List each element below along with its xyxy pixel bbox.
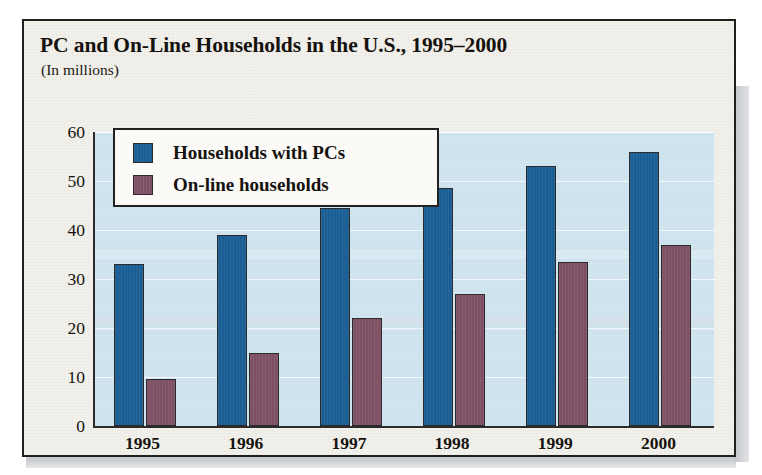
chart-subtitle-units: (In millions) <box>41 61 119 79</box>
x-axis-tick-1996: 1996 <box>228 433 263 454</box>
bar-online-1996 <box>249 353 279 427</box>
chart-title: PC and On-Line Households in the U.S., 1… <box>40 33 507 58</box>
bar-group-1999 <box>526 132 588 426</box>
bar-pc-1995 <box>114 264 144 426</box>
x-axis-tick-1999: 1999 <box>538 433 573 454</box>
bar-pc-1997 <box>320 208 350 426</box>
scan-shadow-right <box>735 86 749 462</box>
chart-legend: Households with PCs On-line households <box>113 128 439 207</box>
x-axis-tick-1997: 1997 <box>331 433 366 454</box>
bar-online-1998 <box>455 294 485 426</box>
legend-label-households-with-pcs: Households with PCs <box>173 142 345 164</box>
bar-pc-1998 <box>423 188 453 426</box>
legend-swatch-households-with-pcs <box>133 143 153 163</box>
y-axis-tick-20: 20 <box>41 318 85 339</box>
bar-online-1997 <box>352 318 382 426</box>
y-axis-tick-30: 30 <box>41 269 85 290</box>
y-axis-tick-labels: 0102030405060 <box>37 132 85 426</box>
chart-figure: PC and On-Line Households in the U.S., 1… <box>22 19 736 457</box>
bar-pc-1996 <box>217 235 247 426</box>
bar-pc-2000 <box>629 152 659 426</box>
legend-item-households-with-pcs: Households with PCs <box>133 138 345 168</box>
x-axis-tick-1995: 1995 <box>125 433 160 454</box>
bar-group-2000 <box>629 132 691 426</box>
x-axis-tick-2000: 2000 <box>641 433 676 454</box>
y-axis-tick-60: 60 <box>41 122 85 143</box>
legend-item-online-households: On-line households <box>133 170 329 200</box>
legend-swatch-online-households <box>133 175 153 195</box>
y-axis-tick-10: 10 <box>41 367 85 388</box>
bar-online-2000 <box>661 245 691 426</box>
legend-label-online-households: On-line households <box>173 174 329 196</box>
bar-online-1995 <box>146 379 176 426</box>
x-axis-tick-1998: 1998 <box>435 433 470 454</box>
bar-pc-1999 <box>526 166 556 426</box>
y-axis-tick-50: 50 <box>41 171 85 192</box>
bar-online-1999 <box>558 262 588 426</box>
y-axis-tick-0: 0 <box>41 416 85 437</box>
x-axis-tick-labels: 199519961997199819992000 <box>93 433 712 461</box>
y-axis-tick-40: 40 <box>41 220 85 241</box>
scanned-page: PC and On-Line Households in the U.S., 1… <box>0 0 762 475</box>
